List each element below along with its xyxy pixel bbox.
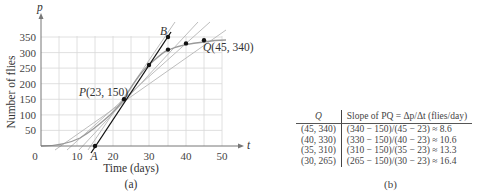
point-a-label: A <box>89 150 98 162</box>
svg-text:0: 0 <box>32 150 38 162</box>
y-tick-labels: 50 100 150 200 250 300 350 <box>20 31 37 136</box>
point-35 <box>166 47 170 51</box>
cell-slope: (265 − 150)/(30 − 23) ≈ 16.4 <box>341 156 472 167</box>
point-40 <box>184 41 188 45</box>
y-axis-title: Number of flies <box>5 55 17 128</box>
cell-slope: (340 − 150)/(45 − 23) ≈ 8.6 <box>341 124 472 135</box>
point-a <box>93 144 97 148</box>
chart-a: p t 50 100 150 200 250 300 350 0 10 20 3… <box>0 0 260 196</box>
header-q: Q <box>296 110 341 124</box>
point-b-label: B <box>160 25 167 37</box>
point-30 <box>147 63 151 67</box>
table-row: (40, 330) (330 − 150)/(40 − 23) ≈ 10.6 <box>296 135 472 146</box>
p-axis-arrow-icon <box>39 13 44 19</box>
point-p-label: P(23, 150) <box>78 86 128 99</box>
svg-text:350: 350 <box>20 31 37 43</box>
cell-q: (45, 340) <box>296 124 341 135</box>
cell-slope: (330 − 150)/(40 − 23) ≈ 10.6 <box>341 135 472 146</box>
cell-q: (30, 265) <box>296 156 341 167</box>
caption-a: (a) <box>125 178 138 191</box>
x-tick-labels: 0 10 20 30 40 50 <box>32 150 228 162</box>
svg-text:150: 150 <box>20 93 37 105</box>
svg-text:40: 40 <box>181 150 193 162</box>
slope-table: Q Slope of PQ = Δp/Δt (flies/day) (45, 3… <box>296 110 472 167</box>
t-axis-arrow-icon <box>238 144 244 149</box>
svg-text:100: 100 <box>20 109 37 121</box>
x-axis-title: Time (days) <box>103 162 159 175</box>
svg-text:30: 30 <box>144 150 156 162</box>
table-row: (35, 310) (310 − 150)/(35 − 23) ≈ 13.3 <box>296 145 472 156</box>
cell-slope: (310 − 150)/(35 − 23) ≈ 13.3 <box>341 145 472 156</box>
svg-text:10: 10 <box>72 150 84 162</box>
cell-q: (35, 310) <box>296 145 341 156</box>
svg-text:20: 20 <box>108 150 120 162</box>
point-q-label: Q(45, 340) <box>203 41 254 54</box>
caption-b: (b) <box>384 178 397 190</box>
table-row: (45, 340) (340 − 150)/(45 − 23) ≈ 8.6 <box>296 124 472 135</box>
svg-text:50: 50 <box>217 150 229 162</box>
header-slope: Slope of PQ = Δp/Δt (flies/day) <box>341 110 472 124</box>
svg-text:50: 50 <box>25 124 37 136</box>
svg-text:300: 300 <box>20 47 37 59</box>
p-axis-symbol: p <box>36 1 43 14</box>
t-axis-symbol: t <box>247 139 251 151</box>
svg-text:200: 200 <box>20 78 37 90</box>
axes <box>41 16 241 146</box>
cell-q: (40, 330) <box>296 135 341 146</box>
table-row: (30, 265) (265 − 150)/(30 − 23) ≈ 16.4 <box>296 156 472 167</box>
svg-text:250: 250 <box>20 62 37 74</box>
